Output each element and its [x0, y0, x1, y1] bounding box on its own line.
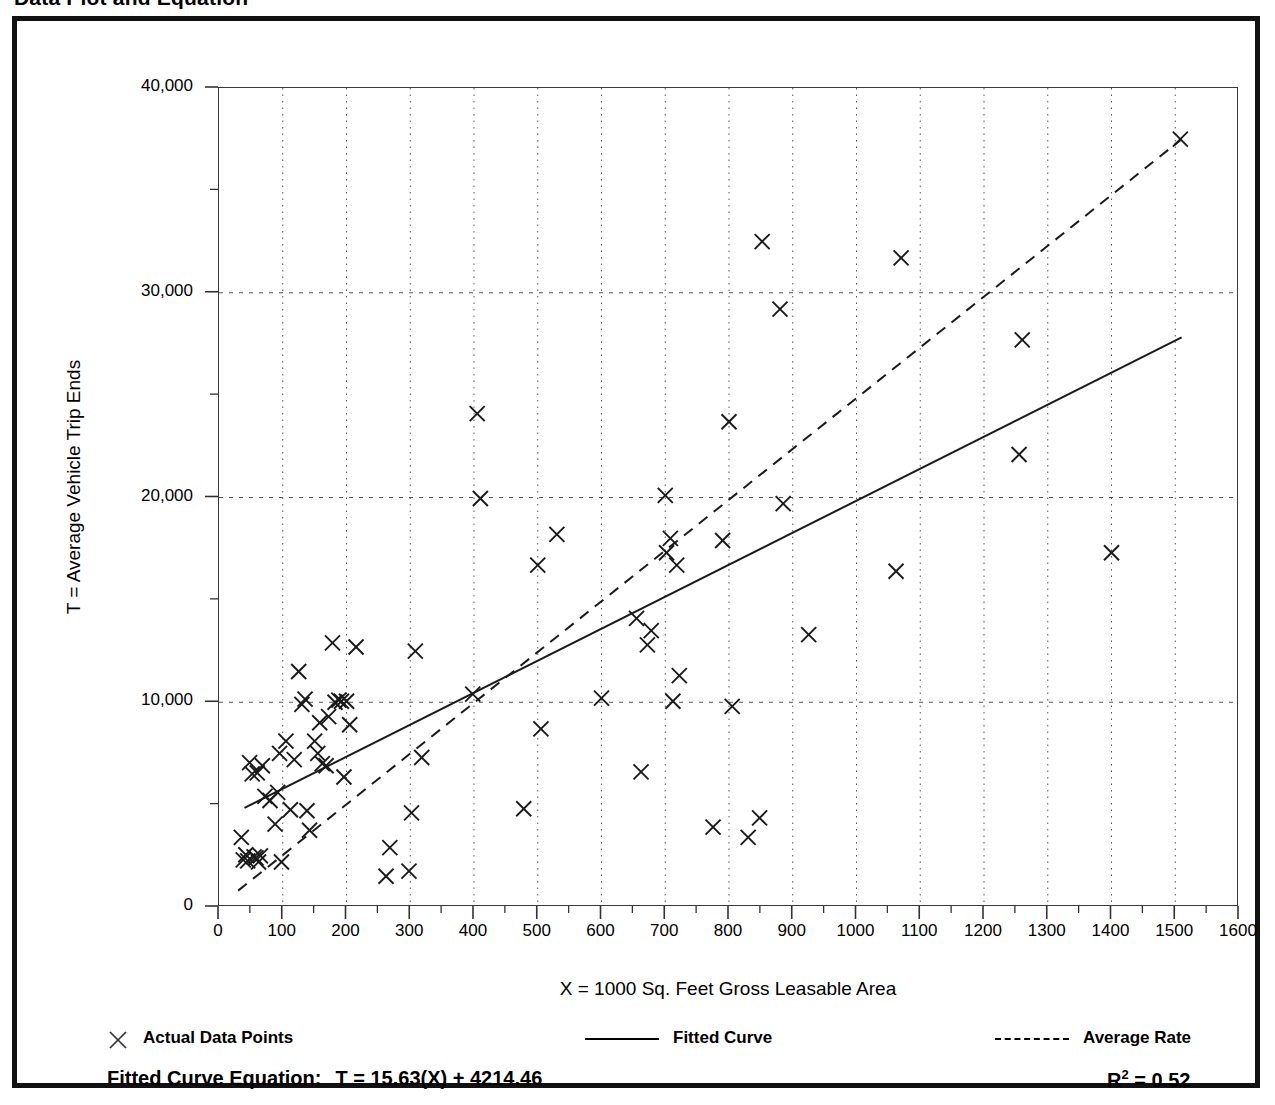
data-point-marker	[658, 488, 673, 503]
data-point-marker	[672, 668, 687, 683]
data-point-marker	[669, 558, 684, 573]
data-point-markers	[234, 132, 1188, 884]
x-axis-title: X = 1000 Sq. Feet Gross Leasable Area	[218, 978, 1238, 1000]
data-point-marker	[473, 491, 488, 506]
data-point-marker	[270, 785, 285, 800]
x-tick-label: 1400	[1076, 921, 1146, 941]
chart-legend: Actual Data PointsFitted CurveAverage Ra…	[107, 1021, 1257, 1055]
x-axis-minor-ticks	[250, 906, 1206, 913]
data-point-marker	[533, 721, 548, 736]
x-tick-label: 1000	[821, 921, 891, 941]
solid-line-swatch	[585, 1029, 659, 1047]
data-point-marker	[255, 758, 270, 773]
data-point-marker	[715, 533, 730, 548]
data-point-marker	[382, 840, 397, 855]
data-point-marker	[1173, 132, 1188, 147]
x-tick-label: 0	[183, 921, 253, 941]
r-squared-value: R2 = 0.52	[1107, 1067, 1190, 1092]
y-tick-label: 20,000	[93, 486, 193, 506]
data-point-marker	[274, 854, 289, 869]
x-marker-icon	[107, 1029, 129, 1047]
x-tick-label: 700	[629, 921, 699, 941]
y-tick-label: 0	[93, 895, 193, 915]
equation-row: Fitted Curve Equation:T = 15.63(X) + 421…	[107, 1067, 1257, 1099]
data-point-marker	[321, 709, 336, 724]
x-axis-major-ticks	[218, 906, 1238, 919]
legend-item-average-rate: Average Rate	[995, 1021, 1191, 1055]
fitted-curve-equation: Fitted Curve Equation:T = 15.63(X) + 421…	[107, 1067, 542, 1090]
x-tick-label: 600	[566, 921, 636, 941]
data-point-marker	[291, 664, 306, 679]
dashed-line-swatch	[995, 1029, 1069, 1047]
average-rate-line	[238, 139, 1182, 890]
data-point-marker	[752, 810, 767, 825]
equation-label: Fitted Curve Equation:	[107, 1067, 321, 1089]
x-tick-label: 800	[693, 921, 763, 941]
x-tick-label: 400	[438, 921, 508, 941]
data-point-marker	[634, 764, 649, 779]
data-point-marker	[283, 802, 298, 817]
data-point-marker	[894, 250, 909, 265]
data-point-marker	[298, 692, 313, 707]
data-point-marker	[234, 830, 249, 845]
y-tick-label: 30,000	[93, 281, 193, 301]
data-point-marker	[549, 527, 564, 542]
legend-label: Average Rate	[1083, 1028, 1191, 1048]
x-tick-label: 1200	[948, 921, 1018, 941]
x-tick-label: 300	[374, 921, 444, 941]
data-point-marker	[401, 864, 416, 879]
page-title: Data Plot and Equation	[14, 0, 248, 10]
y-tick-label: 10,000	[93, 690, 193, 710]
x-tick-label: 1100	[884, 921, 954, 941]
data-point-marker	[342, 717, 357, 732]
data-point-marker	[307, 734, 322, 749]
figure-frame: 0100200300400500600700800900100011001200…	[12, 16, 1260, 1088]
data-point-marker	[414, 750, 429, 765]
data-point-marker	[516, 801, 531, 816]
y-axis-title: T = Average Vehicle Trip Ends	[63, 207, 85, 767]
plot-area	[218, 87, 1238, 906]
data-point-marker	[1104, 545, 1119, 560]
legend-item-actual-data-points: Actual Data Points	[107, 1021, 293, 1055]
data-point-marker	[665, 694, 680, 709]
data-point-marker	[294, 697, 309, 712]
x-tick-label: 900	[757, 921, 827, 941]
equation-value: T = 15.63(X) + 4214.46	[335, 1067, 542, 1089]
data-point-marker	[889, 564, 904, 579]
data-point-marker	[773, 302, 788, 317]
data-point-marker	[1012, 447, 1027, 462]
data-point-marker	[470, 406, 485, 421]
y-axis-major-ticks	[205, 87, 218, 906]
legend-item-fitted-curve: Fitted Curve	[585, 1021, 772, 1055]
legend-label: Fitted Curve	[673, 1028, 772, 1048]
x-tick-label: 500	[502, 921, 572, 941]
data-point-marker	[725, 699, 740, 714]
data-point-marker	[242, 755, 257, 770]
fitted-curve-line	[245, 337, 1182, 807]
data-point-marker	[349, 639, 364, 654]
y-tick-label: 40,000	[93, 76, 193, 96]
data-point-marker	[801, 627, 816, 642]
data-point-marker	[741, 830, 756, 845]
x-tick-label: 1600	[1203, 921, 1273, 941]
data-point-marker	[268, 817, 283, 832]
data-point-marker	[379, 869, 394, 884]
data-point-marker	[776, 496, 791, 511]
x-tick-label: 1300	[1012, 921, 1082, 941]
data-point-marker	[404, 805, 419, 820]
data-point-marker	[1015, 332, 1030, 347]
data-point-marker	[663, 531, 678, 546]
x-tick-label: 1500	[1139, 921, 1209, 941]
x-tick-label: 100	[247, 921, 317, 941]
data-point-marker	[706, 820, 721, 835]
data-point-marker	[755, 234, 770, 249]
data-point-marker	[325, 635, 340, 650]
data-point-marker	[640, 637, 655, 652]
legend-label: Actual Data Points	[143, 1028, 293, 1048]
data-point-marker	[336, 769, 351, 784]
data-point-marker	[629, 611, 644, 626]
r-squared-number: = 0.52	[1134, 1069, 1190, 1091]
data-point-marker	[644, 623, 659, 638]
scatter-plot-canvas	[219, 88, 1239, 907]
y-axis-minor-ticks	[210, 189, 218, 803]
